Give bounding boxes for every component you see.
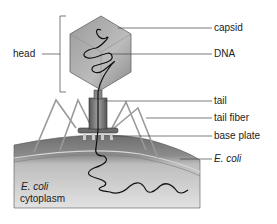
label-tail: tail bbox=[214, 95, 227, 107]
label-base-plate: base plate bbox=[214, 130, 260, 142]
label-dna: DNA bbox=[214, 48, 235, 60]
label-tail-fiber: tail fiber bbox=[214, 112, 249, 124]
phage-diagram: head capsid DNA tail tail fiber base pla… bbox=[0, 0, 277, 224]
label-head: head bbox=[13, 48, 35, 60]
head-bracket bbox=[60, 16, 66, 92]
label-capsid: capsid bbox=[214, 22, 243, 34]
label-cytoplasm-line2: cytoplasm bbox=[20, 193, 65, 205]
label-ecoli: E. coli bbox=[214, 153, 241, 165]
capsid bbox=[70, 16, 131, 90]
label-cytoplasm-line1: E. coli bbox=[21, 181, 48, 193]
